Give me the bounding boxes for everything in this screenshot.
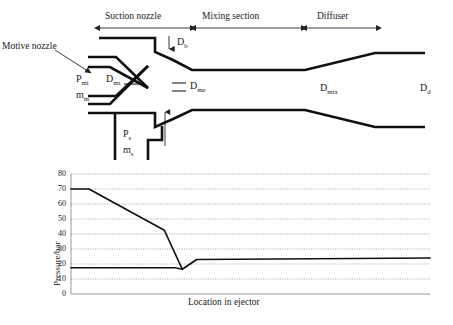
- ms-sub: s: [131, 150, 134, 157]
- dimension-label-Dme: Dme: [190, 80, 206, 93]
- dimension-label-Ps: Ps: [123, 128, 131, 141]
- mm-base: m: [76, 89, 84, 100]
- section-label-diffuser: Diffuser: [317, 11, 348, 21]
- figure-ejector-pressure-profile: Suction nozzle Mixing section Diffuser M…: [0, 0, 453, 325]
- Pmi-sub: mi: [82, 79, 89, 86]
- chart-line-motive-stream-pressure: [71, 189, 182, 269]
- Ps-sub: s: [129, 134, 132, 141]
- dimension-label-Pmi: Pmi: [76, 73, 89, 86]
- dimension-label-Dmix: Dmix: [320, 82, 338, 95]
- dimension-label-ms: ms: [123, 144, 133, 157]
- chart-x-axis-label: Location in ejector: [188, 297, 260, 307]
- callout-motive-nozzle: Motive nozzle: [2, 41, 57, 51]
- mm-sub: m: [84, 95, 89, 102]
- dimension-label-mm: mm: [76, 89, 89, 102]
- pressure-profile-chart: Pressure/bar 80706050403020100 Location …: [0, 168, 453, 325]
- ms-base: m: [123, 144, 131, 155]
- Dmt-sub: mt: [113, 79, 120, 86]
- dimension-label-Dmt: Dmt: [106, 73, 120, 86]
- Dme-sub: me: [197, 86, 205, 93]
- dimension-label-Dd: Dd: [420, 82, 431, 95]
- dimension-label-Db: Db: [177, 36, 188, 49]
- Dmix-sub: mix: [327, 88, 338, 95]
- ejector-schematic: Suction nozzle Mixing section Diffuser M…: [0, 0, 453, 168]
- Dd-sub: d: [427, 88, 430, 95]
- section-label-suction-nozzle: Suction nozzle: [105, 11, 161, 21]
- section-label-mixing-section: Mixing section: [202, 11, 259, 21]
- Db-sub: b: [184, 42, 187, 49]
